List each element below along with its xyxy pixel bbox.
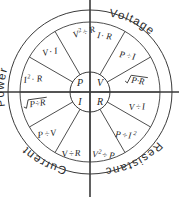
formula-resistance-v-over-i: V ÷ I [129,101,146,112]
formula-op: ÷ [136,102,141,112]
hub-symbol-resistance: R [96,96,103,107]
formula-tail: P [108,150,116,160]
hub-symbol-power: P [76,77,83,88]
formula-radicand: P·R [130,75,146,87]
formula-op: ÷ [102,150,108,160]
formula-sup: 2 [98,147,102,154]
hub-symbol-current: I [77,96,82,107]
ohms-law-wheel: Power Voltage Current Resistance P V I R… [0,0,179,197]
formula-op: ÷ [68,148,74,158]
formula-tail: R [73,148,81,158]
formula-current-v-over-r: V ÷ R [61,148,81,159]
